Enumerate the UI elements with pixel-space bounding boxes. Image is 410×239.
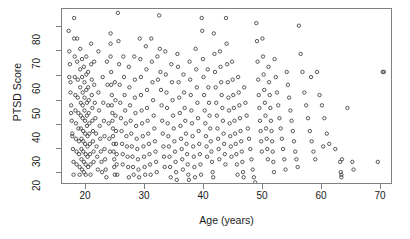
x-tick-60 [321,184,322,189]
plot-area [61,8,392,184]
y-axis-title: PTSD Score [11,42,23,142]
y-tick-label-60: 60 [31,75,42,103]
x-tick-label-40: 40 [183,190,223,201]
x-tick-label-60: 60 [301,190,341,201]
x-tick-label-30: 30 [124,190,164,201]
x-tick-label-50: 50 [242,190,282,201]
x-tick-label-20: 20 [65,190,105,201]
x-tick-40 [203,184,204,189]
x-tick-70 [380,184,381,189]
y-tick-label-20: 20 [31,172,42,200]
x-tick-label-70: 70 [360,190,400,201]
x-axis-title: Age (years) [61,214,392,226]
x-tick-50 [262,184,263,189]
x-tick-20 [85,184,86,189]
scatter-plot-figure: PTSD Score 80 70 60 50 40 30 20 20 30 40… [0,0,410,239]
scatter-markers [62,9,391,183]
y-tick-label-70: 70 [31,50,42,78]
data-points-layer [62,9,391,183]
x-tick-30 [144,184,145,189]
